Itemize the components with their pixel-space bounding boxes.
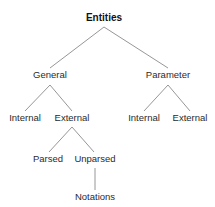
tree-node-param-internal: Internal (128, 112, 160, 123)
tree-node-gen-external: External (55, 112, 90, 123)
tree-edge-parameter-external (168, 85, 190, 111)
tree-node-unparsed: Unparsed (74, 153, 115, 164)
tree-edge-entities-general (50, 27, 104, 68)
tree-edge-general-internal (25, 85, 50, 111)
tree-edge-external-unparsed (72, 127, 94, 152)
edge-layer (25, 27, 190, 190)
tree-edge-entities-parameter (104, 27, 168, 68)
tree-edge-external-parsed (49, 127, 72, 152)
tree-node-general: General (33, 69, 67, 80)
tree-node-parsed: Parsed (33, 153, 63, 164)
tree-node-parameter: Parameter (146, 69, 190, 80)
tree-node-notations: Notations (75, 191, 115, 202)
tree-edge-parameter-internal (144, 85, 168, 111)
tree-canvas: EntitiesGeneralParameterInternalExternal… (0, 0, 215, 207)
tree-node-entities: Entities (86, 12, 123, 23)
tree-node-param-external: External (173, 112, 208, 123)
node-layer: EntitiesGeneralParameterInternalExternal… (9, 12, 207, 202)
tree-edge-general-external (50, 85, 72, 111)
tree-node-gen-internal: Internal (9, 112, 41, 123)
entity-tree-diagram: EntitiesGeneralParameterInternalExternal… (0, 0, 215, 207)
